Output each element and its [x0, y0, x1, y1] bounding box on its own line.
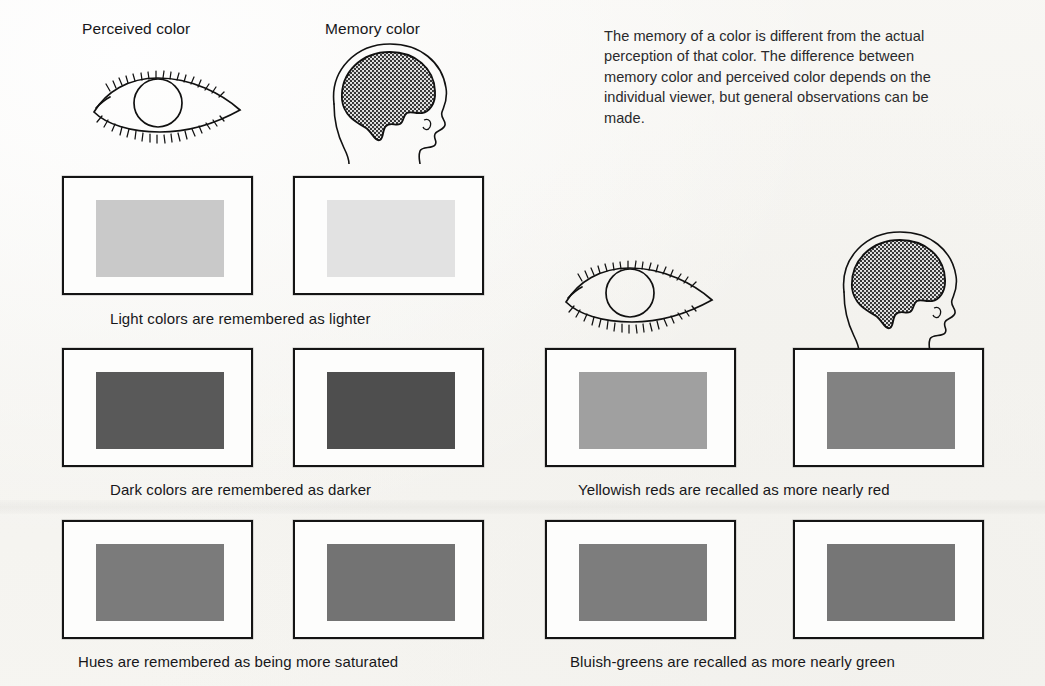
- swatch-frame-perceived-row2: [62, 348, 253, 467]
- caption-row2: Dark colors are remembered as darker: [110, 481, 371, 498]
- paragraph-line: The memory of a color is different from …: [604, 26, 1004, 46]
- eye-icon: [560, 248, 720, 340]
- head-brain-icon: [826, 222, 976, 352]
- swatch-memory-row1: [327, 200, 455, 277]
- paragraph-line: individual viewer, but general observati…: [604, 87, 1004, 107]
- swatch-frame-memory-right-row2: [793, 520, 984, 639]
- caption-row1: Light colors are remembered as lighter: [110, 310, 371, 327]
- swatch-frame-memory-row3: [293, 520, 484, 639]
- swatch-frame-perceived-right-row1: [545, 348, 736, 467]
- caption-right-row1: Yellowish reds are recalled as more near…: [578, 481, 890, 498]
- swatch-frame-perceived-row3: [62, 520, 253, 639]
- caption-right-row2: Bluish-greens are recalled as more nearl…: [570, 653, 895, 670]
- swatch-perceived-row3: [96, 544, 224, 621]
- swatch-perceived-right-row1: [579, 372, 707, 449]
- swatch-frame-perceived-row1: [62, 176, 253, 295]
- figure-content: Perceived color Memory color: [0, 0, 1045, 686]
- swatch-memory-right-row2: [827, 544, 955, 621]
- swatch-memory-row2: [327, 372, 455, 449]
- swatch-frame-perceived-right-row2: [545, 520, 736, 639]
- paragraph-line: perception of that color. The difference…: [604, 46, 1004, 66]
- swatch-perceived-right-row2: [579, 544, 707, 621]
- paragraph-line: made.: [604, 108, 1004, 128]
- head-brain-icon: [316, 34, 466, 164]
- swatch-frame-memory-row2: [293, 348, 484, 467]
- swatch-perceived-row1: [96, 200, 224, 277]
- paragraph-line: memory color and perceived color depends…: [604, 67, 1004, 87]
- swatch-memory-row3: [327, 544, 455, 621]
- caption-row3: Hues are remembered as being more satura…: [78, 653, 398, 670]
- left-header-perceived: Perceived color: [82, 20, 190, 38]
- swatch-frame-memory-row1: [293, 176, 484, 295]
- intro-paragraph: The memory of a color is different from …: [604, 26, 1004, 128]
- swatch-frame-memory-right-row1: [793, 348, 984, 467]
- swatch-memory-right-row1: [827, 372, 955, 449]
- swatch-perceived-row2: [96, 372, 224, 449]
- eye-icon: [88, 58, 248, 150]
